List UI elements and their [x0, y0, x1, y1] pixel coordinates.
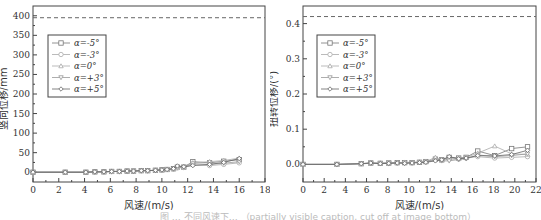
data-point — [492, 144, 496, 148]
y-tick-label: 0.4 — [286, 19, 301, 29]
y-tick-label: 300 — [13, 50, 30, 60]
y-tick-label: 0.3 — [286, 54, 301, 64]
x-tick-label: 18 — [488, 185, 500, 195]
x-tick-label: 0 — [30, 185, 36, 195]
legend-label: α=-5° — [343, 38, 368, 48]
x-tick-label: 0 — [300, 185, 306, 195]
legend: α=-5°α=-3°α=0°α=+3°α=+5° — [48, 35, 106, 97]
legend-label: α=0° — [74, 61, 97, 71]
x-tick-label: 2 — [321, 185, 327, 195]
x-tick-label: 14 — [208, 185, 220, 195]
torsional-displacement-chart: 02468101214161820220.00.10.20.30.4风速/(m/… — [270, 0, 541, 210]
y-tick-label: 50 — [19, 148, 31, 158]
figure-caption-partial: 图 … 不同风速下… （partially visible caption, c… — [160, 210, 476, 220]
x-tick-label: 8 — [133, 185, 139, 195]
y-tick-label: 0 — [24, 167, 30, 177]
x-tick-label: 6 — [107, 185, 113, 195]
y-tick-label: 400 — [13, 11, 30, 21]
legend-marker — [59, 41, 63, 45]
x-tick-label: 8 — [385, 185, 391, 195]
legend-marker — [328, 52, 332, 56]
y-axis-title: 扭转位移/(°) — [270, 71, 279, 127]
x-tick-label: 20 — [509, 185, 521, 195]
y-tick-label: 0.0 — [286, 159, 301, 169]
x-axis-title: 风速/(m/s) — [124, 200, 174, 210]
x-tick-label: 10 — [403, 185, 415, 195]
legend-marker — [59, 52, 63, 56]
legend-label: α=-5° — [74, 38, 99, 48]
x-tick-label: 6 — [364, 185, 370, 195]
y-axis-title: 竖向位移/mm — [0, 68, 9, 131]
y-tick-label: 250 — [13, 69, 30, 79]
x-tick-label: 12 — [182, 185, 193, 195]
x-tick-label: 12 — [424, 185, 435, 195]
legend-label: α=+5° — [343, 84, 373, 94]
x-tick-label: 10 — [156, 185, 168, 195]
series-4 — [301, 148, 530, 166]
y-tick-label: 150 — [13, 109, 30, 119]
x-tick-label: 22 — [530, 185, 541, 195]
x-tick-label: 4 — [342, 185, 348, 195]
x-tick-label: 16 — [467, 185, 479, 195]
legend-label: α=-3° — [343, 50, 368, 60]
x-tick-label: 2 — [56, 185, 62, 195]
legend-label: α=+3° — [343, 73, 373, 83]
y-tick-label: 0.1 — [286, 124, 300, 134]
x-axis-title: 风速/(m/s) — [395, 200, 445, 210]
data-point — [509, 146, 513, 150]
x-tick-label: 4 — [82, 185, 88, 195]
legend-label: α=-3° — [74, 50, 99, 60]
y-tick-label: 0.2 — [286, 89, 300, 99]
y-tick-label: 200 — [13, 89, 30, 99]
x-tick-label: 16 — [233, 185, 245, 195]
data-point — [447, 159, 451, 163]
y-tick-label: 100 — [13, 128, 30, 138]
x-tick-label: 14 — [446, 185, 458, 195]
legend: α=-5°α=-3°α=0°α=+3°α=+5° — [317, 35, 375, 97]
vertical-displacement-chart: 024681012141618050100150200250300350400风… — [0, 0, 270, 210]
legend-marker — [328, 41, 332, 45]
legend-label: α=+3° — [74, 73, 104, 83]
legend-label: α=+5° — [74, 84, 104, 94]
y-tick-label: 350 — [13, 30, 30, 40]
legend-label: α=0° — [343, 61, 366, 71]
x-tick-label: 18 — [259, 185, 270, 195]
